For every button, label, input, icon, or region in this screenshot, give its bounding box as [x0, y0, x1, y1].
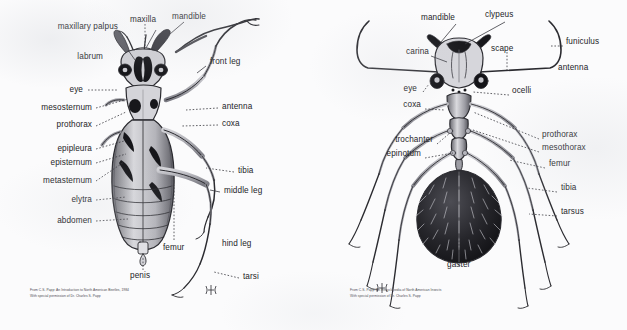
beetle-label-penis: penis [130, 272, 150, 280]
beetle-credit-line-2: With special permission of Dr. Charles S… [30, 294, 129, 300]
ant-diagram-panel: mandible clypeus carina eye coxa trochan… [313, 0, 627, 330]
beetle-label-hind-leg: hind leg [222, 240, 251, 248]
beetle-label-front-leg: front leg [210, 58, 240, 66]
ant-label-mesothorax: mesothorax [542, 144, 586, 152]
ant-label-ocelli: ocelli [512, 87, 531, 95]
ant-label-gaster: gaster [447, 261, 470, 269]
ant-label-prothorax: prothorax [542, 131, 578, 139]
beetle-label-epipleura: epipleura [57, 145, 92, 153]
beetle-label-mandible: mandible [172, 13, 206, 21]
beetle-label-maxilla: maxilla [130, 16, 156, 24]
ant-label-carina: carina [406, 48, 429, 56]
beetle-label-prothorax: prothorax [57, 121, 93, 129]
ant-illustration [313, 0, 627, 330]
ant-label-trochanter: trochanter [395, 136, 433, 144]
ant-label-antenna: antenna [558, 64, 588, 72]
beetle-label-labrum: labrum [77, 53, 103, 61]
ant-label-eye: eye [403, 85, 417, 93]
beetle-label-tibia: tibia [238, 167, 254, 175]
beetle-label-femur: femur [163, 244, 184, 252]
beetle-illustration [0, 0, 313, 330]
beetle-label-mesosternum: mesosternum [41, 104, 92, 112]
ant-label-mandible: mandible [421, 14, 455, 22]
beetle-credit: From C.S. Papp: An Introduction to North… [30, 288, 129, 299]
ant-credit-line-1: From C.S. Papp: An Encyclopedia of North… [350, 288, 441, 294]
ant-label-tarsus: tarsus [561, 208, 584, 216]
ant-label-funiculus: funiculus [566, 38, 599, 46]
beetle-label-antenna: antenna [222, 103, 252, 111]
beetle-label-abdomen: abdomen [57, 217, 92, 225]
beetle-diagram-panel: maxillary palpus labrum eye mesosternum … [0, 0, 313, 330]
ant-label-clypeus: clypeus [485, 11, 513, 19]
beetle-credit-line-1: From C.S. Papp: An Introduction to North… [30, 288, 129, 294]
figure-plate: maxillary palpus labrum eye mesosternum … [0, 0, 627, 330]
ant-label-femur: femur [549, 160, 570, 168]
beetle-label-maxillary-palpus: maxillary palpus [58, 23, 118, 31]
beetle-label-eye: eye [69, 86, 83, 94]
ant-label-epinotum: epinotum [387, 150, 421, 158]
ant-label-tibia: tibia [561, 184, 577, 192]
beetle-label-tarsi: tarsi [243, 273, 259, 281]
ant-credit-line-2: With special permission of Dr. Charles S… [350, 294, 441, 300]
papp-monogram [206, 285, 216, 295]
beetle-label-metasternum: metasternum [43, 177, 92, 185]
ant-credit: From C.S. Papp: An Encyclopedia of North… [350, 288, 441, 299]
ant-label-coxa: coxa [403, 101, 421, 109]
beetle-label-elytra: elytra [71, 196, 92, 204]
beetle-label-middle-leg: middle leg [224, 187, 262, 195]
beetle-label-coxa: coxa [222, 120, 240, 128]
beetle-label-episternum: episternum [50, 159, 92, 167]
ant-label-scape: scape [491, 45, 513, 53]
